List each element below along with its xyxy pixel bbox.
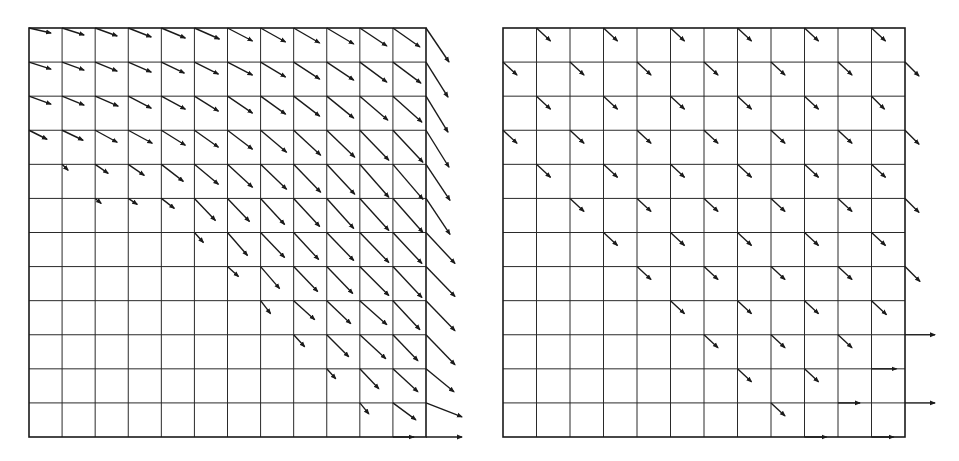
vector-arrow xyxy=(905,62,919,76)
vector-arrow xyxy=(228,198,250,221)
vector-field-figure xyxy=(0,0,959,461)
vector-arrow xyxy=(128,198,137,204)
vector-arrow xyxy=(194,198,215,220)
vector-arrow xyxy=(604,233,618,246)
vector-arrow xyxy=(637,198,651,211)
vector-arrow xyxy=(637,267,651,280)
vector-arrow xyxy=(872,164,886,177)
vector-arrow xyxy=(128,62,151,72)
vector-arrow xyxy=(426,198,450,234)
vector-arrow xyxy=(637,62,651,75)
vector-arrow xyxy=(228,267,239,277)
vector-arrow xyxy=(426,28,449,62)
vector-arrow xyxy=(426,369,454,392)
vector-arrow xyxy=(905,198,919,212)
vector-arrow xyxy=(261,62,286,77)
vector-arrow xyxy=(327,130,355,157)
vector-arrow xyxy=(360,233,389,263)
vector-arrow xyxy=(537,164,551,177)
vector-arrow xyxy=(604,28,618,41)
vector-arrow xyxy=(294,62,320,79)
vector-arrow xyxy=(194,164,218,184)
vector-arrow xyxy=(95,28,117,36)
vector-arrow xyxy=(327,28,354,44)
vector-arrow xyxy=(503,62,517,75)
vector-arrow xyxy=(29,62,51,69)
vector-arrow xyxy=(128,96,151,108)
vector-arrow xyxy=(393,233,422,264)
vector-arrow xyxy=(671,301,685,314)
vector-arrow xyxy=(637,130,651,143)
vector-arrow xyxy=(261,267,280,289)
vector-arrow xyxy=(838,62,852,75)
vector-arrow xyxy=(805,369,819,382)
vector-arrow xyxy=(872,28,886,41)
vector-arrow xyxy=(294,164,321,192)
vector-arrow xyxy=(194,233,203,243)
vector-arrow xyxy=(228,96,253,113)
vector-arrow xyxy=(393,96,422,122)
vector-arrow xyxy=(360,301,387,325)
vector-arrow xyxy=(294,233,319,260)
vector-arrow xyxy=(570,130,584,143)
vector-arrow xyxy=(671,233,685,246)
vector-arrow xyxy=(294,28,320,43)
vector-arrow xyxy=(360,164,389,197)
vector-arrow xyxy=(128,28,151,37)
vector-arrow xyxy=(393,198,423,232)
vector-arrow xyxy=(393,267,422,298)
vector-arrow xyxy=(194,28,219,39)
vector-arrow xyxy=(194,96,218,111)
vector-arrow xyxy=(62,130,83,140)
vector-arrow xyxy=(771,62,785,75)
vector-arrow xyxy=(771,267,785,280)
vector-arrow xyxy=(261,28,286,42)
vector-arrow xyxy=(426,130,449,167)
vector-arrow xyxy=(161,28,185,38)
right-vector-field-panel xyxy=(503,28,935,437)
vector-arrow xyxy=(771,198,785,211)
vector-arrow xyxy=(805,96,819,109)
vector-arrow xyxy=(228,233,248,256)
vector-arrow xyxy=(426,403,462,417)
vector-arrow xyxy=(29,96,51,104)
left-vector-field-panel xyxy=(29,28,462,437)
vector-arrow xyxy=(128,130,152,143)
vector-arrow xyxy=(838,267,852,280)
vector-arrow xyxy=(771,130,785,143)
vector-arrow xyxy=(838,335,852,348)
vector-arrow xyxy=(805,28,819,41)
vector-arrow xyxy=(161,198,174,208)
vector-arrow xyxy=(327,96,354,118)
vector-arrow xyxy=(95,164,108,173)
vector-arrow xyxy=(228,164,253,187)
vector-arrow xyxy=(360,267,389,296)
vector-arrow xyxy=(393,28,420,47)
vector-arrow xyxy=(327,267,353,294)
vector-arrow xyxy=(228,28,253,41)
vector-arrow xyxy=(294,335,305,347)
vector-arrow xyxy=(570,62,584,75)
vector-arrow xyxy=(393,164,423,199)
vector-arrow xyxy=(194,62,218,74)
vector-arrow xyxy=(704,198,718,211)
vector-arrow xyxy=(360,335,386,359)
right-grid-lines xyxy=(503,28,905,437)
vector-arrow xyxy=(62,62,84,70)
vector-arrow xyxy=(738,164,752,177)
vector-arrow xyxy=(327,335,349,357)
vector-arrow xyxy=(261,301,271,314)
vector-arrow xyxy=(704,62,718,75)
vector-arrow xyxy=(360,62,387,82)
vector-arrow xyxy=(161,62,184,73)
vector-arrow xyxy=(393,130,423,162)
vector-arrow xyxy=(570,198,584,211)
vector-arrow xyxy=(360,369,379,389)
vector-arrow xyxy=(805,301,819,314)
vector-arrow xyxy=(161,130,185,145)
vector-arrow xyxy=(327,164,355,194)
vector-arrow xyxy=(294,267,318,292)
vector-arrow xyxy=(704,267,718,280)
vector-arrow xyxy=(426,301,455,331)
vector-arrow xyxy=(62,164,68,170)
